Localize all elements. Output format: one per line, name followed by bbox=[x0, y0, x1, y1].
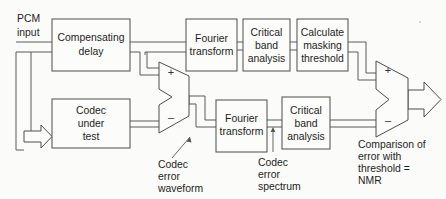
error-summer-minus-sign: – bbox=[168, 111, 175, 123]
pcm-input-label: PCM input bbox=[17, 13, 40, 38]
block-calculate-masking-threshold: Calculate masking threshold bbox=[297, 19, 348, 71]
annotation-codec-error-waveform-line-2: error bbox=[158, 171, 180, 182]
block-codec-under-test-line-1: Codec bbox=[76, 105, 106, 116]
codec-error-spectrum-leader bbox=[271, 127, 276, 152]
block-diagram-figure: + – + – Compensating delay Codec under t… bbox=[0, 0, 446, 199]
annotation-codec-error-waveform-line-3: waveform bbox=[157, 183, 203, 194]
wire-errsum-to-fourier-bottom-a bbox=[189, 96, 216, 120]
comparison-summer: + – bbox=[376, 61, 408, 137]
wire-delay-to-summer-plus-b bbox=[147, 52, 159, 68]
annotation-codec-error-spectrum-line-3: spectrum bbox=[258, 181, 301, 192]
block-critical-band-analysis-bottom: Critical band analysis bbox=[282, 97, 330, 149]
block-fourier-transform-bottom-line-1: Fourier bbox=[225, 113, 258, 124]
error-summer: + – bbox=[159, 62, 189, 133]
wire-pcm-branch-inner bbox=[24, 52, 31, 136]
block-fourier-transform-bottom: Fourier transform bbox=[216, 100, 267, 152]
annotation-comparison-nmr-line-4: NMR bbox=[358, 175, 382, 186]
error-summer-plus-sign: + bbox=[168, 66, 174, 78]
block-compensating-delay-line-2: delay bbox=[79, 46, 105, 57]
block-fourier-transform-top-line-1: Fourier bbox=[195, 33, 228, 44]
block-compensating-delay: Compensating delay bbox=[52, 19, 130, 71]
annotation-comparison-nmr-line-2: error with bbox=[358, 151, 402, 162]
block-fourier-transform-top: Fourier transform bbox=[186, 19, 237, 71]
wire-errsum-tap bbox=[189, 96, 196, 104]
block-critical-band-analysis-top-line-2: band bbox=[255, 40, 278, 51]
block-critical-band-analysis-top: Critical band analysis bbox=[243, 19, 290, 71]
codec-error-waveform-leader bbox=[172, 137, 192, 158]
block-critical-band-analysis-top-line-3: analysis bbox=[248, 53, 286, 64]
block-codec-under-test-line-3: test bbox=[83, 131, 100, 142]
annotation-codec-error-spectrum-line-1: Codec bbox=[258, 157, 288, 168]
annotation-comparison-nmr: Comparison of error with threshold = NMR bbox=[358, 139, 426, 186]
nmr-output-arrow-icon bbox=[408, 82, 441, 117]
codec-error-spectrum-arrowhead-icon bbox=[271, 127, 276, 132]
annotation-comparison-nmr-line-1: Comparison of bbox=[358, 139, 426, 150]
wire-delay-to-summer-plus-a bbox=[130, 52, 159, 75]
block-fourier-transform-top-line-2: transform bbox=[190, 46, 234, 57]
block-codec-under-test-line-2: under bbox=[78, 118, 105, 129]
wire-errsum-to-fourier-bottom-b bbox=[196, 104, 216, 127]
scan-speck bbox=[419, 21, 421, 23]
wire-summer-rail-to-fourier-top bbox=[145, 52, 186, 55]
block-compensating-delay-line-1: Compensating bbox=[57, 32, 124, 43]
pcm-input-label-line-1: PCM bbox=[17, 13, 40, 24]
block-calculate-masking-threshold-line-3: threshold bbox=[301, 53, 344, 64]
block-critical-band-analysis-bottom-line-1: Critical bbox=[290, 105, 322, 116]
comparison-summer-plus-sign: + bbox=[385, 64, 391, 76]
diagram-canvas: + – + – Compensating delay Codec under t… bbox=[0, 0, 446, 199]
wire-cmt-to-sum-plus-b bbox=[348, 52, 376, 80]
block-critical-band-analysis-bottom-line-2: band bbox=[294, 118, 317, 129]
block-critical-band-analysis-bottom-line-3: analysis bbox=[287, 131, 325, 142]
block-codec-under-test: Codec under test bbox=[52, 99, 130, 148]
annotation-codec-error-spectrum: Codec error spectrum bbox=[258, 157, 301, 192]
block-fourier-transform-bottom-line-2: transform bbox=[220, 126, 264, 137]
wire-pcm-branch-outer bbox=[16, 52, 24, 150]
block-critical-band-analysis-top-line-1: Critical bbox=[251, 27, 283, 38]
annotation-comparison-nmr-line-3: threshold = bbox=[358, 163, 410, 174]
block-calculate-masking-threshold-line-1: Calculate bbox=[301, 27, 345, 38]
annotation-codec-error-waveform-line-1: Codec bbox=[158, 159, 188, 170]
comparison-summer-minus-sign: – bbox=[385, 114, 392, 126]
wire-cmt-to-sum-plus-a bbox=[348, 42, 376, 73]
pcm-feed-arrow-icon bbox=[24, 125, 52, 148]
block-calculate-masking-threshold-line-2: masking bbox=[303, 40, 342, 51]
annotation-codec-error-waveform: Codec error waveform bbox=[157, 159, 203, 194]
annotation-codec-error-spectrum-line-2: error bbox=[258, 169, 280, 180]
pcm-input-label-line-2: input bbox=[17, 27, 40, 38]
